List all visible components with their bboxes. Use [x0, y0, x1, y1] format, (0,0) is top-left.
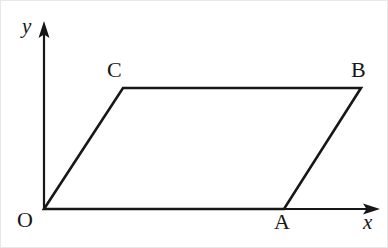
vertex-label-c: C: [107, 59, 122, 81]
vertex-label-b: B: [351, 59, 366, 81]
vertex-label-o: O: [17, 209, 33, 231]
y-axis-label: y: [22, 16, 31, 37]
vertex-label-a: A: [274, 211, 290, 233]
x-axis-label: x: [363, 212, 372, 233]
figure-canvas: [1, 1, 388, 248]
parallelogram-oabc: [44, 88, 361, 209]
geometry-figure: y x O A B C: [0, 0, 388, 248]
